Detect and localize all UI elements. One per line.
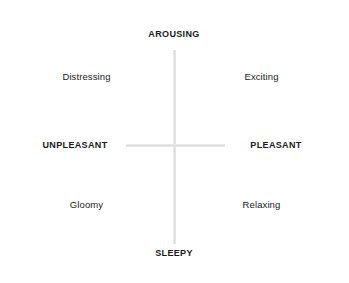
node-arousing[interactable]: AROUSING — [122, 16, 226, 53]
node-arousing-label: AROUSING — [148, 30, 199, 39]
node-unpleasant[interactable]: UNPLEASANT — [23, 127, 127, 163]
vertical-axis-line — [173, 50, 176, 244]
horizontal-axis-line — [126, 144, 225, 147]
node-sleepy[interactable]: SLEEPY — [122, 235, 226, 271]
node-relaxing[interactable]: Relaxing — [216, 188, 307, 222]
node-unpleasant-label: UNPLEASANT — [42, 141, 107, 150]
node-distressing-label: Distressing — [62, 72, 110, 82]
node-sleepy-label: SLEEPY — [155, 249, 193, 258]
node-relaxing-label: Relaxing — [243, 200, 281, 210]
node-pleasant-label: PLEASANT — [250, 141, 301, 150]
node-gloomy-label: Gloomy — [70, 200, 103, 210]
circumplex-affect-diagram: AROUSING Distressing Exciting UNPLEASANT… — [0, 0, 349, 283]
node-gloomy[interactable]: Gloomy — [41, 188, 132, 222]
node-exciting-label: Exciting — [244, 72, 278, 82]
node-distressing[interactable]: Distressing — [41, 60, 132, 94]
node-exciting[interactable]: Exciting — [216, 60, 307, 94]
node-pleasant[interactable]: PLEASANT — [224, 127, 328, 163]
